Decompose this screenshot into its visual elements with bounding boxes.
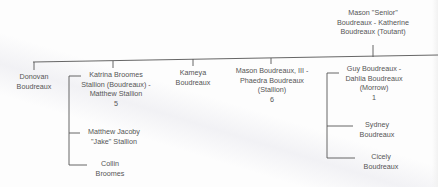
node-kameya-line-1: Kameya (168, 68, 218, 78)
node-kameya: Kameya Boudreaux (168, 68, 218, 87)
node-cicely-line-1: Cicely (356, 152, 406, 162)
node-mason-iii-line-1: Mason Boudreaux, III - (226, 66, 318, 76)
node-mason-iii-count: 6 (226, 95, 318, 105)
node-guy-line-2: Dahlia Boudreaux (336, 74, 412, 84)
node-guy: Guy Boudreaux - Dahlia Boudreaux (Morrow… (336, 64, 412, 102)
node-jake-line-1: Matthew Jacoby (80, 127, 148, 137)
node-mason-iii-line-3: (Stallion) (226, 85, 318, 95)
node-katrina-count: 5 (74, 99, 158, 109)
node-kameya-line-2: Boudreaux (168, 78, 218, 88)
node-jake: Matthew Jacoby "Jake" Stallion (80, 127, 148, 146)
sibling-bus-line (33, 55, 438, 62)
node-root: Mason "Senior" Boudreaux - Katherine Bou… (318, 8, 428, 37)
node-guy-line-3: (Morrow) (336, 83, 412, 93)
node-donovan-line-2: Boudreaux (4, 82, 64, 92)
node-mason-iii-line-2: Phaedra Boudreaux (226, 76, 318, 86)
node-cicely-line-2: Boudreaux (356, 162, 406, 172)
node-katrina: Katrina Broomes Stallion (Boudreaux) - M… (74, 70, 158, 108)
node-sydney-line-1: Sydney (352, 120, 402, 130)
node-collin-line-2: Broomes (88, 169, 132, 179)
node-collin-line-1: Collin (88, 159, 132, 169)
node-donovan: Donovan Boudreaux (4, 72, 64, 91)
node-guy-count: 1 (336, 93, 412, 103)
node-root-line-3: Boudreaux (Toutant) (318, 27, 428, 37)
node-root-line-2: Boudreaux - Katherine (318, 18, 428, 28)
node-katrina-line-3: Matthew Stallion (74, 89, 158, 99)
node-donovan-line-1: Donovan (4, 72, 64, 82)
node-mason-iii: Mason Boudreaux, III - Phaedra Boudreaux… (226, 66, 318, 104)
node-cicely: Cicely Boudreaux (356, 152, 406, 171)
diagram-page: Mason "Senior" Boudreaux - Katherine Bou… (0, 0, 438, 187)
node-sydney: Sydney Boudreaux (352, 120, 402, 139)
node-katrina-line-2: Stallion (Boudreaux) - (74, 80, 158, 90)
node-katrina-line-1: Katrina Broomes (74, 70, 158, 80)
node-root-line-1: Mason "Senior" (318, 8, 428, 18)
node-collin: Collin Broomes (88, 159, 132, 178)
node-guy-line-1: Guy Boudreaux - (336, 64, 412, 74)
node-sydney-line-2: Boudreaux (352, 130, 402, 140)
node-jake-line-2: "Jake" Stallion (80, 137, 148, 147)
